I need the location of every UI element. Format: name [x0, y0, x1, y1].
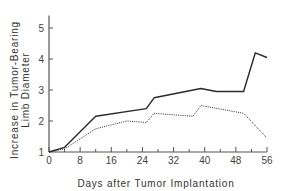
x-tick-label: 0 — [46, 155, 52, 166]
x-tick-label: 32 — [168, 155, 180, 166]
y-axis-title-line2: Limb Diameter — [20, 52, 31, 127]
y-tick-label: 5 — [38, 23, 44, 34]
x-tick-label: 48 — [230, 155, 242, 166]
x-tick-label: 56 — [261, 155, 273, 166]
y-axis-title-line1: Increase in Tumor-Bearing — [9, 21, 20, 159]
series-dotted-line — [49, 106, 267, 153]
x-tick-label: 24 — [137, 155, 149, 166]
y-tick-label: 1 — [38, 147, 44, 158]
x-tick-label: 40 — [199, 155, 211, 166]
y-tick-label: 3 — [38, 85, 44, 96]
x-tick-label: 16 — [106, 155, 118, 166]
line-chart: Increase in Tumor-Bearing Limb Diameter … — [0, 0, 286, 191]
series-solid-line — [49, 53, 267, 152]
x-tick-label: 8 — [77, 155, 83, 166]
y-axis-title: Increase in Tumor-Bearing Limb Diameter — [9, 21, 31, 159]
x-axis-title: Days after Tumor Implantation — [77, 178, 234, 189]
series-lines — [49, 53, 267, 152]
y-tick-label: 4 — [38, 54, 44, 65]
y-tick-label: 2 — [38, 116, 44, 127]
